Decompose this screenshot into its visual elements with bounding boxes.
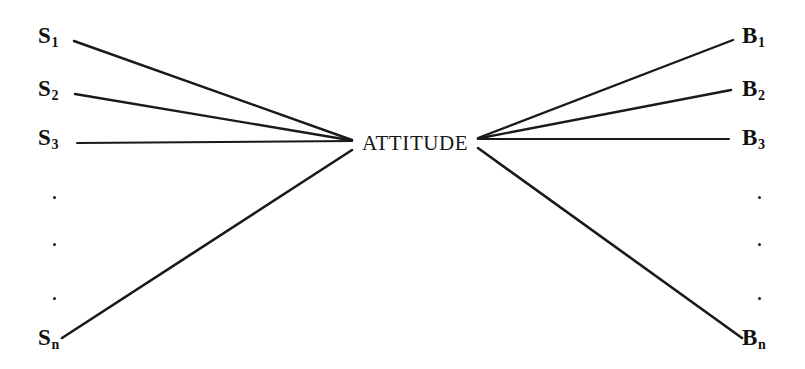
node-base-letter: B (742, 23, 758, 48)
node-base-letter: S (38, 325, 51, 350)
right-node-b2: B2 (742, 77, 765, 100)
node-subscript: n (52, 337, 60, 352)
left-ellipsis-dot-3 (53, 297, 56, 300)
diagram-connector-lines (0, 0, 805, 369)
left-ellipsis-dot-1 (53, 196, 56, 199)
attitude-diagram: ATTITUDE S1S2S3Sn B1B2B3Bn (0, 0, 805, 369)
left-node-s3: S3 (38, 126, 58, 149)
left-node-s2: S2 (38, 77, 58, 100)
right-ellipsis-dot-3 (758, 297, 761, 300)
node-subscript: 1 (758, 35, 765, 50)
left-connector-group (62, 41, 352, 338)
node-base-letter: S (38, 23, 51, 48)
node-subscript: 3 (52, 137, 59, 152)
connector-s3-to-attitude (77, 141, 352, 143)
connector-sn-to-attitude (62, 150, 352, 338)
left-node-sn: Sn (38, 326, 59, 349)
right-node-b3: B3 (742, 126, 765, 149)
connector-s1-to-attitude (74, 41, 352, 140)
connector-s2-to-attitude (75, 94, 352, 141)
right-ellipsis-dot-1 (758, 196, 761, 199)
right-node-bn: Bn (742, 326, 765, 349)
node-base-letter: B (742, 125, 758, 150)
left-node-s1: S1 (38, 24, 58, 47)
right-connector-group (478, 40, 742, 338)
node-subscript: 2 (52, 88, 59, 103)
connector-attitude-to-b2 (478, 90, 731, 139)
node-subscript: 1 (52, 35, 59, 50)
right-node-b1: B1 (742, 24, 765, 47)
connector-attitude-to-bn (478, 148, 742, 338)
left-ellipsis-dot-2 (53, 243, 56, 246)
node-base-letter: B (742, 76, 758, 101)
right-ellipsis-dot-2 (758, 243, 761, 246)
node-base-letter: B (742, 325, 758, 350)
node-subscript: n (758, 337, 766, 352)
node-base-letter: S (38, 125, 51, 150)
center-node-attitude: ATTITUDE (362, 133, 468, 154)
node-subscript: 3 (758, 137, 765, 152)
node-subscript: 2 (758, 88, 765, 103)
connector-attitude-to-b1 (478, 40, 733, 138)
node-base-letter: S (38, 76, 51, 101)
